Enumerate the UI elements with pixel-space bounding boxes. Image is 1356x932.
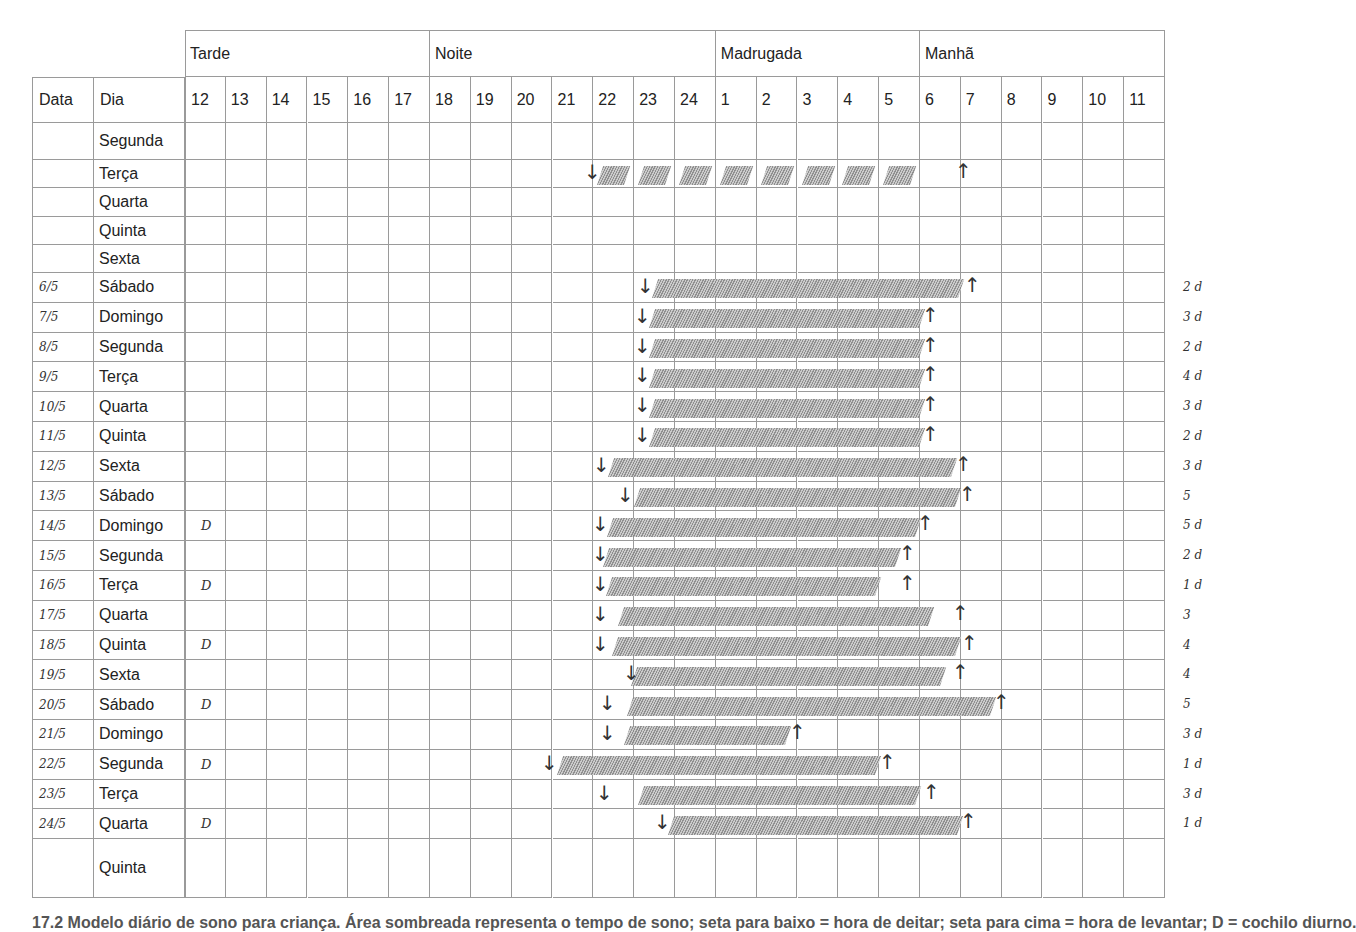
hour-cell (267, 422, 308, 452)
hour-cell (553, 188, 594, 217)
date-cell: 21/5 (32, 720, 94, 750)
bedtime-down-arrow-icon: ↓ (592, 514, 609, 534)
hour-cell (471, 511, 512, 541)
day-cell: Quinta (94, 631, 185, 661)
hour-header-7: 7 (961, 77, 1002, 123)
nap-mark: D (185, 809, 226, 839)
hour-cell (348, 245, 389, 273)
hour-cell (1083, 601, 1124, 631)
hour-cell (1083, 452, 1124, 482)
hour-cell (308, 273, 349, 303)
hour-cell (1083, 245, 1124, 273)
hour-cell (879, 123, 920, 160)
hour-cell (308, 541, 349, 571)
figure-caption: 17.2 Modelo diário de sono para criança.… (32, 914, 1356, 932)
hour-cell (1124, 245, 1165, 273)
hour-cell (1043, 571, 1084, 601)
hour-cell (593, 273, 634, 303)
hour-cell (1002, 571, 1043, 601)
hour-cell (267, 809, 308, 839)
nap-mark: D (185, 511, 226, 541)
nap-mark: D (185, 571, 226, 601)
hour-cell (226, 188, 267, 217)
hour-cell (1124, 571, 1165, 601)
hour-cell (634, 123, 675, 160)
hour-cell (389, 422, 430, 452)
hour-cell (1043, 482, 1084, 512)
hour-cell (308, 422, 349, 452)
hour-cell (226, 839, 267, 898)
hour-cell (471, 217, 512, 245)
hour-cell (553, 809, 594, 839)
duration-note: 1 d (1183, 757, 1202, 771)
sleep-bar (612, 637, 961, 656)
day-cell: Quarta (94, 601, 185, 631)
bedtime-down-arrow-icon: ↓ (634, 336, 651, 356)
hour-cell (471, 660, 512, 690)
hour-cell (348, 571, 389, 601)
bedtime-down-arrow-icon: ↓ (584, 162, 601, 182)
hour-cell (1002, 839, 1043, 898)
hour-cell (226, 160, 267, 188)
hour-cell (471, 422, 512, 452)
hour-cell (553, 303, 594, 333)
hour-cell (1002, 123, 1043, 160)
hour-cell (512, 511, 553, 541)
hour-cell (1043, 809, 1084, 839)
wake-up-arrow-icon: ↑ (899, 573, 916, 593)
hour-cell (471, 839, 512, 898)
hour-cell (1083, 362, 1124, 392)
duration-note: 3 d (1183, 399, 1202, 413)
hour-cell (185, 839, 226, 898)
hour-cell (1043, 839, 1084, 898)
hour-cell (471, 333, 512, 363)
hour-cell (185, 188, 226, 217)
sleep-bar (649, 339, 925, 358)
hour-cell (389, 720, 430, 750)
date-cell: 11/5 (32, 422, 94, 452)
hour-cell (553, 660, 594, 690)
bedtime-down-arrow-icon: ↓ (599, 723, 616, 743)
hour-cell (1124, 362, 1165, 392)
hour-cell (920, 571, 961, 601)
hour-cell (389, 333, 430, 363)
hour-cell (389, 245, 430, 273)
hour-cell (430, 571, 471, 601)
hour-cell (267, 245, 308, 273)
hour-cell (226, 541, 267, 571)
hour-header-18: 18 (430, 77, 471, 123)
hour-cell (1043, 217, 1084, 245)
hour-cell (226, 217, 267, 245)
date-cell: 14/5 (32, 511, 94, 541)
hour-cell (1083, 160, 1124, 188)
duration-note: 2 d (1183, 340, 1202, 354)
wake-up-arrow-icon: ↑ (993, 692, 1010, 712)
hour-cell (1002, 392, 1043, 422)
hour-cell (185, 160, 226, 188)
date-cell (32, 217, 94, 245)
hour-cell (389, 273, 430, 303)
hour-cell (675, 839, 716, 898)
hour-cell (389, 541, 430, 571)
hour-cell (185, 217, 226, 245)
hour-cell (471, 188, 512, 217)
hour-cell (267, 333, 308, 363)
hour-cell (308, 720, 349, 750)
hour-cell (348, 541, 389, 571)
date-cell (32, 839, 94, 898)
hour-cell (1124, 601, 1165, 631)
date-cell: 19/5 (32, 660, 94, 690)
bedtime-down-arrow-icon: ↓ (592, 634, 609, 654)
hour-cell (512, 188, 553, 217)
date-cell (32, 188, 94, 217)
wake-up-arrow-icon: ↑ (964, 275, 981, 295)
hour-cell (1002, 601, 1043, 631)
hour-cell (675, 123, 716, 160)
hour-header-5: 5 (879, 77, 920, 123)
hour-header-9: 9 (1043, 77, 1084, 123)
hour-cell (512, 839, 553, 898)
hour-cell (267, 188, 308, 217)
hour-cell (1083, 839, 1124, 898)
wake-up-arrow-icon: ↑ (922, 305, 939, 325)
hour-cell (430, 452, 471, 482)
